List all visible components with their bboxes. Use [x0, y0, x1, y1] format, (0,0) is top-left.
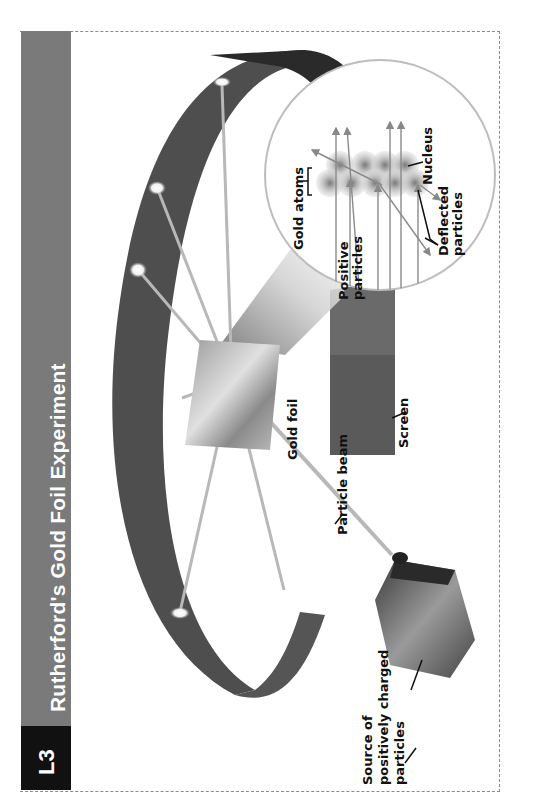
gold-atoms: [316, 151, 429, 197]
label-source-2: positively charged: [376, 650, 391, 785]
label-nucleus: Nucleus: [420, 127, 435, 185]
gold-foil: [185, 340, 280, 450]
label-particle-beam: Particle beam: [335, 434, 350, 535]
label-source-3: particles: [392, 721, 407, 785]
label-source-1: Source of: [360, 715, 375, 785]
label-gold-atoms: Gold atoms: [291, 167, 306, 250]
label-screen: Screen: [396, 398, 411, 448]
label-positive-2: particles: [350, 236, 365, 300]
label-deflected-1: Deflected: [436, 186, 451, 256]
gold-foil-diagram: Screen Particle beam Gold foil Source of…: [0, 0, 542, 811]
label-deflected-2: particles: [450, 192, 465, 256]
label-positive-1: Positive: [336, 241, 351, 300]
label-gold-foil: Gold foil: [285, 399, 300, 460]
